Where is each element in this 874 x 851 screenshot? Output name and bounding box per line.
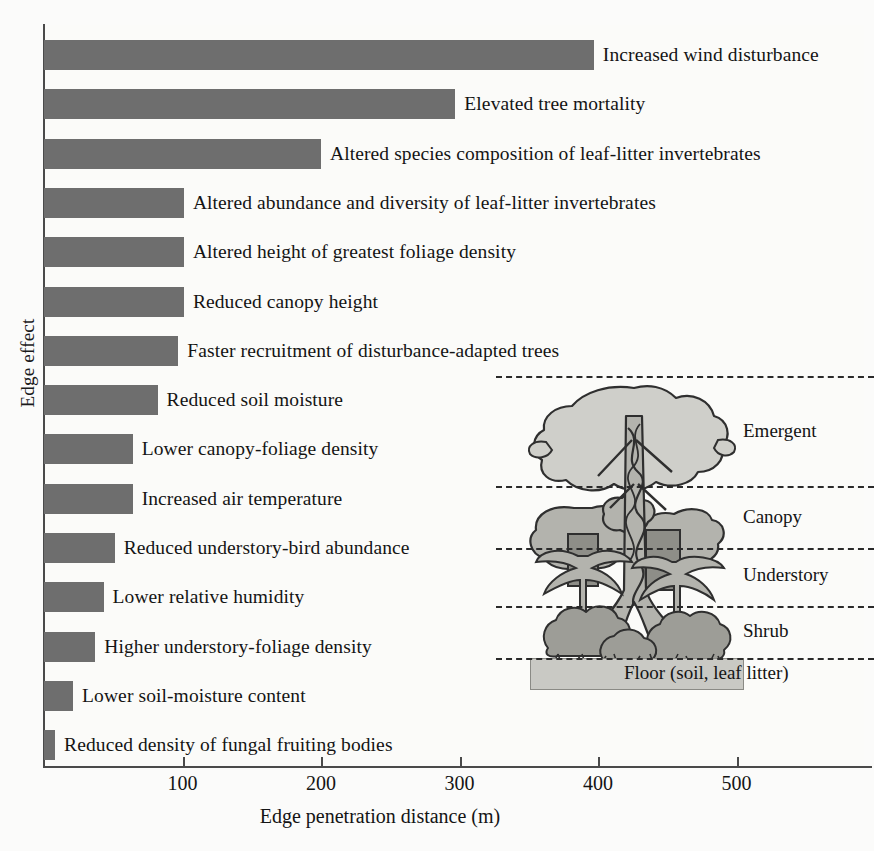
bar [44,484,133,514]
bar [44,434,133,464]
strata-label-understory: Understory [743,564,828,586]
bar [44,681,73,711]
bar [44,582,104,612]
x-axis-tick-mark [737,757,739,767]
x-axis-tick-mark [598,757,600,767]
bar [44,40,594,70]
strata-divider-understory-shrub [496,606,874,608]
strata-label-canopy: Canopy [743,506,802,528]
strata-label-emergent: Emergent [743,420,817,442]
x-axis-tick-label: 200 [286,772,356,795]
bar-label: Reduced canopy height [193,291,378,313]
forest-strata-diagram: Emergent Canopy Understory Shrub Floor (… [496,376,874,694]
bar [44,385,158,415]
bar [44,730,55,760]
bar-label: Altered species composition of leaf-litt… [330,143,761,165]
figure-container: Edge effect Increased wind disturbanceEl… [0,0,874,851]
bar-label: Altered height of greatest foliage densi… [193,241,516,263]
bar [44,632,95,662]
bar-label: Increased air temperature [142,488,343,510]
strata-label-shrub: Shrub [743,620,788,642]
x-axis-tick-mark [460,757,462,767]
bar [44,237,184,267]
bar [44,287,184,317]
bar-label: Reduced soil moisture [167,389,344,411]
bar-label: Elevated tree mortality [464,93,645,115]
bar [44,336,178,366]
x-axis-tick-mark [321,757,323,767]
bar-label: Faster recruitment of disturbance-adapte… [187,340,559,362]
bar-label: Lower relative humidity [113,586,305,608]
bar-label: Higher understory-foliage density [104,636,372,658]
x-axis-tick-label: 100 [148,772,218,795]
bar [44,188,184,218]
x-axis-line [43,766,872,768]
bar-label: Reduced density of fungal fruiting bodie… [64,734,393,756]
y-axis-title: Edge effect [17,293,39,433]
strata-divider-shrub-floor [496,658,874,660]
strata-divider-emergent-top [496,376,874,378]
bar-label: Altered abundance and diversity of leaf-… [193,192,656,214]
x-axis-tick-label: 500 [702,772,772,795]
bar-label: Reduced understory-bird abundance [124,537,410,559]
x-axis-tick-mark [183,757,185,767]
strata-label-floor: Floor (soil, leaf litter) [624,662,789,684]
rainforest-tree-illustration [522,380,750,672]
x-axis-tick-label: 300 [425,772,495,795]
strata-divider-emergent-canopy [496,486,874,488]
x-axis-title: Edge penetration distance (m) [0,805,760,828]
x-axis-tick-label: 400 [563,772,633,795]
bar [44,139,321,169]
bar [44,533,115,563]
bar-label: Lower soil-moisture content [82,685,306,707]
bar-label: Lower canopy-foliage density [142,438,379,460]
bar [44,89,455,119]
strata-divider-canopy-understory [496,548,874,550]
bar-label: Increased wind disturbance [603,44,819,66]
